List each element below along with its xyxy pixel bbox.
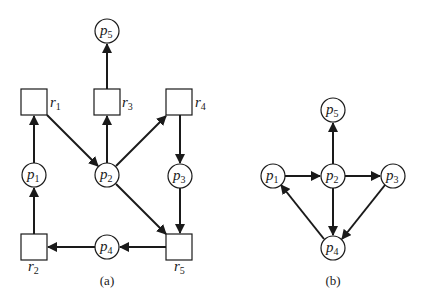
process-node-p2: p2 xyxy=(95,163,119,187)
wfg-node-p4: p4 xyxy=(321,236,345,260)
caption-b: (b) xyxy=(325,273,340,288)
resource-node-r1: r1 xyxy=(21,89,61,115)
process-node-p5: p5 xyxy=(95,19,119,43)
resource-allocation-graph: p5 p1 p2 p3 p4 r1 r3 r4 xyxy=(21,19,206,288)
wait-for-graph: p5 p1 p2 p3 p4 (b) xyxy=(261,98,405,288)
wfg-node-p2: p2 xyxy=(321,164,345,188)
edge-p2-r5 xyxy=(116,184,166,234)
svg-text:r2: r2 xyxy=(28,258,39,276)
wfg-node-p1: p1 xyxy=(261,164,285,188)
edge-p2-r4 xyxy=(116,116,166,166)
svg-text:r5: r5 xyxy=(174,258,185,276)
wfg-node-p3: p3 xyxy=(381,164,405,188)
edge-r1-p2 xyxy=(47,115,98,166)
process-node-p4: p4 xyxy=(95,235,119,259)
process-node-p3: p3 xyxy=(168,164,192,188)
deadlock-graphs-figure: p5 p1 p2 p3 p4 r1 r3 r4 xyxy=(0,0,424,302)
svg-text:r4: r4 xyxy=(195,94,206,112)
svg-text:r3: r3 xyxy=(122,94,133,112)
process-node-p1: p1 xyxy=(22,163,46,187)
resource-node-r4: r4 xyxy=(166,89,206,115)
resource-node-r2: r2 xyxy=(21,234,47,276)
resource-node-r5: r5 xyxy=(166,234,192,276)
wfg-node-p5: p5 xyxy=(321,98,345,122)
resource-node-r3: r3 xyxy=(94,89,133,115)
caption-a: (a) xyxy=(100,273,114,288)
edge-p4-p1 xyxy=(281,185,324,239)
svg-text:r1: r1 xyxy=(50,94,61,112)
edge-p3-p4 xyxy=(342,185,385,239)
